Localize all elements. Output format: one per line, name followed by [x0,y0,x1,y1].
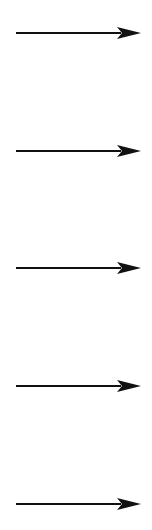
right-arrow-icon [0,376,152,396]
right-arrow-icon [0,141,152,161]
right-arrow-icon [0,23,152,43]
right-arrow-icon [0,494,152,514]
right-arrow-icon [0,258,152,278]
